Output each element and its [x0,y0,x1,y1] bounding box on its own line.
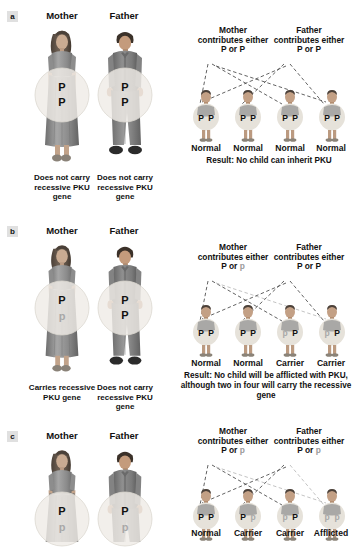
panel-a-father-genotype-circle: P P [95,66,155,124]
panel-b-mother-allele-top: P [58,294,65,306]
panel-b-father-contributes: Father contributes either P or P [272,243,346,272]
panel-c-father-allele-top: P [121,505,128,517]
panel-a-mother-allele-top: P [58,81,65,93]
panel-b-mother-allele-bottom: p [59,310,66,322]
panel-c-mother-contributes: Mother contributes either P or p [196,427,270,456]
panel-c-father-contributes: Father contributes either P or p [272,427,346,456]
svg-text:p: p [250,512,255,522]
svg-text:P: P [198,512,204,522]
panel-b-result-line2: although two in four will carry the rece… [180,381,352,401]
panel-a-mother-contributes: Mother contributes either P or P [196,26,270,55]
svg-text:P: P [334,328,340,338]
panel-c-child-label-3: Carrier [269,528,311,538]
allele-1: P [297,445,302,455]
svg-text:P: P [292,113,298,123]
svg-text:P: P [198,328,204,338]
panel-c-mother-figure: P p [38,446,86,542]
svg-text:P: P [250,328,256,338]
panel-a-father-caption: Does not carry recessive PKU gene [89,173,161,202]
panel-c-child-label-2: Carrier [227,528,269,538]
panel-b-father-contrib-alleles: P or P [272,262,346,272]
allele-1: P [297,261,302,271]
allele-2: p [316,445,321,455]
panel-a-mother-caption: Does not carry recessive PKU gene [26,173,98,202]
panel-c-mother-allele-top: P [58,505,65,517]
svg-text:p: p [324,328,329,338]
svg-text:P: P [324,113,330,123]
allele-1: P [221,445,226,455]
panel-b-children-figures: P P P P [186,305,352,357]
panel-a-mother-allele-bottom: P [58,96,65,108]
panel-letter-c: c [7,431,18,442]
panel-b-child-label-4: Carrier [310,358,352,368]
panel-a: a Mother Father [0,0,352,215]
panel-b-mother-genotype-circle: P p [32,279,92,337]
panel-b-father-genotype-circle: P P [95,279,155,337]
allele-1: P [297,44,302,54]
svg-text:P: P [208,113,214,123]
svg-text:P: P [240,328,246,338]
panel-b-child-label-1: Normal [185,358,227,368]
panel-b-child-label-3: Carrier [269,358,311,368]
svg-text:P: P [198,113,204,123]
panel-b-child-label-2: Normal [227,358,269,368]
panel-a-result: Result: No child can inherit PKU [186,156,352,166]
panel-a-children-figures: P P P P [186,90,352,142]
allele-or: or [229,44,237,54]
panel-c-mother-allele-bottom: p [59,521,66,533]
panel-a-father-contrib-alleles: P or P [272,45,346,55]
panel-b-mother-contrib-alleles: P or p [196,262,270,272]
panel-c-father-allele-bottom: p [122,521,129,533]
allele-2: P [239,44,245,54]
panel-a-mother-genotype-circle: P P [32,66,92,124]
svg-text:p: p [334,512,339,522]
allele-2: p [240,261,245,271]
panel-letter-b: b [7,226,18,237]
panel-b-mother-caption: Carries recessive PKU gene [26,383,98,402]
panel-a-child-label-1: Normal [185,143,227,153]
panel-a-father-allele-top: P [121,81,128,93]
panel-c-father-title: Father [95,430,153,441]
allele-or: or [305,445,313,455]
svg-text:p: p [282,512,287,522]
panel-c-child-label-1: Normal [185,528,227,538]
allele-or: or [305,44,313,54]
panel-b-mother-figure: P p [38,241,86,376]
panel-c-father-contrib-alleles: P or p [272,446,346,456]
panel-a-child-label-2: Normal [227,143,269,153]
panel-b-mother-title: Mother [33,225,91,236]
svg-text:P: P [208,328,214,338]
allele-or: or [229,445,237,455]
panel-b-mother-contributes: Mother contributes either P or p [196,243,270,272]
panel-b: b Mother Father P p [0,215,352,415]
svg-text:P: P [334,113,340,123]
panel-a-mother-figure: P P [38,26,86,166]
panel-a-father-allele-bottom: P [121,96,128,108]
svg-text:p: p [324,512,329,522]
allele-1: P [221,44,226,54]
svg-text:P: P [292,328,298,338]
allele-2: P [315,261,321,271]
panel-b-father-title: Father [95,225,153,236]
panel-c-father-genotype-circle: P p [95,490,155,548]
panel-a-father-figure: P P [100,26,150,166]
panel-c: c Mother Father P p [0,415,352,542]
allele-or: or [305,261,313,271]
svg-text:P: P [292,512,298,522]
allele-2: P [315,44,321,54]
svg-text:P: P [240,113,246,123]
panel-a-mother-title: Mother [33,10,91,21]
svg-text:P: P [250,113,256,123]
svg-text:P: P [240,512,246,522]
panel-b-father-caption: Does not carry recessive PKU gene [89,383,161,412]
allele-or: or [229,261,237,271]
panel-a-mother-contrib-alleles: P or P [196,45,270,55]
allele-1: P [221,261,226,271]
panel-c-mother-title: Mother [33,430,91,441]
panel-b-father-allele-bottom: P [121,309,128,321]
panel-letter-a: a [7,11,18,22]
panel-b-father-allele-top: P [121,294,128,306]
panel-a-father-title: Father [95,10,153,21]
panel-b-result: Result: No child will be afflicted with … [180,371,352,401]
panel-a-result-line1: Result: No child can inherit PKU [186,156,352,166]
